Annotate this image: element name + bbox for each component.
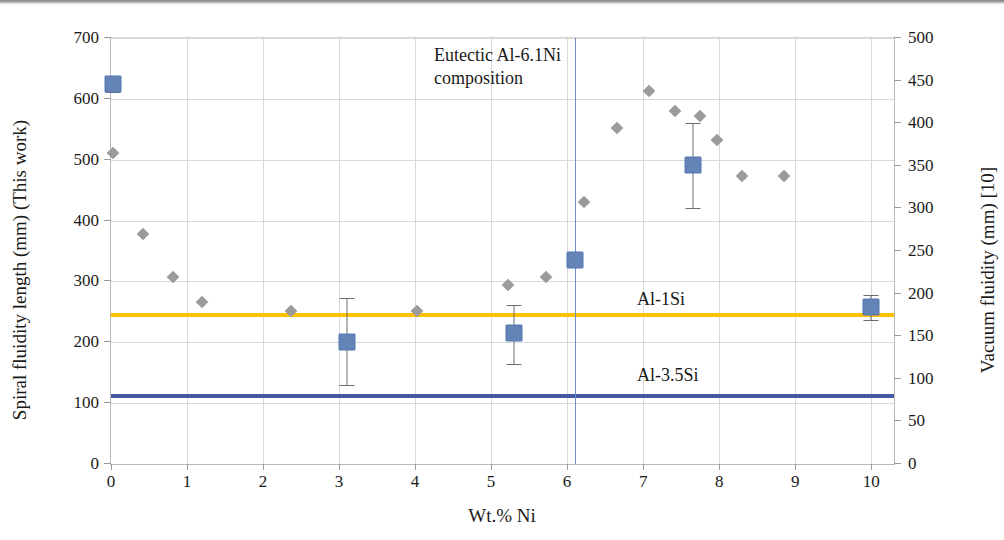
x-axis-tick-label: 1 [167, 464, 207, 490]
error-bar-cap [685, 123, 700, 124]
y-axis-right-tick-label: 150 [894, 327, 968, 344]
y-axis-left-tick-label: 400 [53, 212, 111, 229]
chart-figure: Spiral fluidity length (mm) (This work) … [0, 0, 1004, 540]
plot-area: 0100200300400500600700 05010015020025030… [110, 37, 895, 465]
y-axis-left-tick-label: 300 [53, 272, 111, 289]
eutectic-note: Eutectic Al-6.1Ni composition [434, 44, 561, 90]
data-point-square [505, 325, 522, 342]
error-bar-cap [339, 298, 354, 299]
tick-mark [104, 98, 111, 99]
y-axis-right-tick-label: 300 [894, 199, 968, 216]
tick-mark [719, 464, 720, 470]
x-axis-tick-label: 9 [775, 464, 815, 490]
tick-mark [415, 464, 416, 470]
gridline-vertical [795, 38, 796, 464]
y-axis-right-tick-label: 400 [894, 114, 968, 131]
tick-mark [894, 250, 901, 251]
error-bar-cap [864, 295, 879, 296]
x-axis-tick-label: 2 [243, 464, 283, 490]
tick-mark [894, 80, 901, 81]
x-axis-tick-label: 5 [471, 464, 511, 490]
tick-mark [894, 378, 901, 379]
gridline-horizontal [111, 403, 894, 404]
reference-line-al-1si [111, 313, 894, 317]
x-axis-tick-label: 4 [395, 464, 435, 490]
tick-mark [643, 464, 644, 470]
tick-mark [894, 165, 901, 166]
x-axis-tick-label: 6 [547, 464, 587, 490]
gridline-vertical [339, 38, 340, 464]
y-axis-right-tick-label: 250 [894, 242, 968, 259]
data-point-diamond [643, 84, 656, 97]
y-axis-right-tick-label: 450 [894, 72, 968, 89]
error-bar-cap [506, 305, 521, 306]
data-point-diamond [577, 195, 590, 208]
data-point-diamond [196, 296, 209, 309]
tick-mark [104, 280, 111, 281]
tick-mark [894, 420, 901, 421]
tick-mark [104, 159, 111, 160]
tick-mark [104, 341, 111, 342]
x-axis-tick-label: 0 [91, 464, 131, 490]
al35si-label: Al-3.5Si [637, 364, 699, 387]
tick-mark [491, 464, 492, 470]
data-point-square [104, 75, 121, 92]
gridline-vertical [415, 38, 416, 464]
gridline-horizontal [111, 99, 894, 100]
tick-mark [104, 402, 111, 403]
tick-mark [111, 464, 112, 470]
data-point-diamond [694, 110, 707, 123]
y-axis-right-tick-label: 0 [894, 455, 968, 472]
tick-mark [894, 37, 901, 38]
gridline-vertical [871, 38, 872, 464]
al1si-label: Al-1Si [637, 288, 685, 311]
gridline-horizontal [111, 160, 894, 161]
tick-mark [567, 464, 568, 470]
x-axis-tick-label: 7 [623, 464, 663, 490]
y-axis-right-tick-label: 350 [894, 157, 968, 174]
gridline-vertical [643, 38, 644, 464]
data-point-diamond [669, 105, 682, 118]
x-axis-tick-label: 8 [699, 464, 739, 490]
tick-mark [104, 220, 111, 221]
gridline-horizontal [111, 38, 894, 39]
data-point-square [566, 251, 583, 268]
gridline-horizontal [111, 221, 894, 222]
tick-mark [894, 122, 901, 123]
tick-mark [894, 463, 901, 464]
gridline-horizontal [111, 342, 894, 343]
y-axis-right-tick-label: 100 [894, 370, 968, 387]
y-axis-right-tick-label: 500 [894, 29, 968, 46]
gridline-vertical [719, 38, 720, 464]
x-axis-tick-label: 10 [851, 464, 891, 490]
y-axis-left-title-text: Spiral fluidity length (mm) (This work) [9, 120, 31, 420]
y-axis-right-title: Vacuum fluidity (mm) [10] [974, 0, 1002, 540]
tick-mark [263, 464, 264, 470]
reference-line-al-3-5si [111, 394, 894, 398]
data-point-diamond [610, 122, 623, 135]
data-point-square [863, 298, 880, 315]
gridline-vertical [187, 38, 188, 464]
y-axis-left-tick-label: 500 [53, 151, 111, 168]
tick-mark [187, 464, 188, 470]
scan-edge-artifact [0, 0, 1004, 5]
data-point-diamond [736, 170, 749, 183]
data-point-square [338, 334, 355, 351]
tick-mark [104, 37, 111, 38]
data-point-diamond [710, 134, 723, 147]
y-axis-right-tick-label: 200 [894, 285, 968, 302]
y-axis-left-title: Spiral fluidity length (mm) (This work) [6, 0, 34, 540]
x-axis-title: Wt.% Ni [0, 505, 1004, 527]
y-axis-right-title-text: Vacuum fluidity (mm) [10] [977, 167, 999, 373]
data-point-diamond [137, 228, 150, 241]
tick-mark [795, 464, 796, 470]
gridline-vertical [263, 38, 264, 464]
error-bar-cap [685, 208, 700, 209]
error-bar-cap [864, 320, 879, 321]
tick-mark [894, 207, 901, 208]
error-bar-cap [339, 385, 354, 386]
y-axis-right-tick-label: 50 [894, 412, 968, 429]
gridline-vertical [491, 38, 492, 464]
tick-mark [339, 464, 340, 470]
y-axis-left-tick-label: 600 [53, 90, 111, 107]
